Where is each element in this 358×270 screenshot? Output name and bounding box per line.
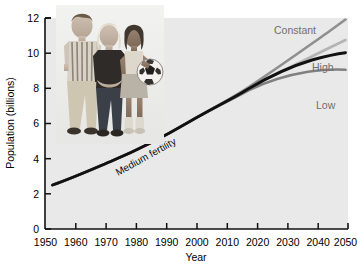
high-end-label: High: [312, 61, 334, 73]
y-tick-label-0: 0: [33, 223, 39, 235]
x-tick-label-2000: 2000: [185, 236, 209, 248]
x-tick-label-2050: 2050: [334, 236, 358, 248]
low-end-label: Low: [316, 99, 336, 111]
x-tick-label-2010: 2010: [216, 236, 240, 248]
population-projection-chart: Medium fertility Constant High Low 0 2 4…: [0, 0, 358, 270]
x-tick-label-2020: 2020: [246, 236, 270, 248]
chart-canvas: Medium fertility Constant High Low 0 2 4…: [0, 0, 358, 270]
three-children-photo: [56, 5, 164, 144]
x-tick-label-1980: 1980: [125, 236, 149, 248]
x-tick-label-1990: 1990: [155, 236, 179, 248]
y-tick-label-6: 6: [33, 117, 39, 129]
y-tick-label-2: 2: [33, 188, 39, 200]
x-tick-label-2040: 2040: [307, 236, 331, 248]
y-tick-label-8: 8: [33, 82, 39, 94]
x-tick-label-2030: 2030: [276, 236, 300, 248]
x-tick-label-1960: 1960: [64, 236, 88, 248]
x-tick-label-1950: 1950: [34, 236, 58, 248]
x-axis-title: Year: [185, 251, 207, 263]
y-tick-label-12: 12: [27, 12, 39, 24]
constant-end-label: Constant: [274, 24, 316, 36]
x-tick-label-1970: 1970: [94, 236, 118, 248]
y-tick-label-10: 10: [27, 47, 39, 59]
y-axis-title: Population (billions): [4, 77, 16, 169]
y-tick-label-4: 4: [33, 153, 39, 165]
soccer-ball-icon: [137, 59, 163, 85]
